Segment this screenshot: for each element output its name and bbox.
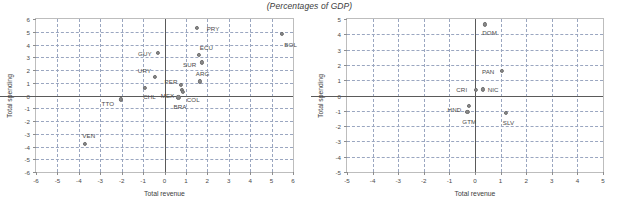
x-tick-label: -5 <box>344 177 350 184</box>
x-axis-title: Total revenue <box>455 190 496 197</box>
data-point-label: BOL <box>284 41 297 48</box>
x-tick-mark <box>347 172 348 175</box>
y-tick-label: 2 <box>338 61 341 68</box>
x-tick-mark <box>424 172 425 175</box>
x-tick-label: 3 <box>550 177 553 184</box>
y-axis-title: Total spending <box>317 74 324 118</box>
x-tick-mark <box>373 172 374 175</box>
x-tick-label: -3 <box>395 177 401 184</box>
y-tick-label: -4 <box>24 143 30 150</box>
x-tick-label: -2 <box>421 177 427 184</box>
y-tick-mark <box>344 126 347 127</box>
x-tick-mark <box>272 172 273 175</box>
y-axis-title: Total spending <box>6 74 13 118</box>
y-tick-mark <box>344 80 347 81</box>
y-tick-mark <box>344 172 347 173</box>
data-point[interactable] <box>504 111 508 115</box>
y-tick-label: 2 <box>27 67 30 74</box>
data-point-label: SUR <box>183 61 196 68</box>
y-tick-label: 3 <box>338 46 341 53</box>
data-point[interactable] <box>83 142 87 146</box>
x-tick-label: -1 <box>140 177 146 184</box>
x-tick-mark <box>603 172 604 175</box>
x-tick-mark <box>501 172 502 175</box>
x-tick-label: -1 <box>447 177 453 184</box>
data-point[interactable] <box>467 104 471 108</box>
x-tick-mark <box>398 172 399 175</box>
data-point[interactable] <box>481 87 485 91</box>
data-point[interactable] <box>178 83 182 87</box>
y-tick-label: -1 <box>335 107 341 114</box>
data-point[interactable] <box>465 109 469 113</box>
data-point-label: ARG <box>196 70 210 77</box>
data-point-label: SLV <box>503 119 515 126</box>
x-tick-label: 4 <box>576 177 579 184</box>
data-point[interactable] <box>280 32 284 36</box>
data-point-label: TTO <box>102 100 115 107</box>
y-tick-mark <box>33 57 36 58</box>
x-tick-mark <box>165 172 166 175</box>
y-tick-mark <box>344 50 347 51</box>
x-tick-mark <box>526 172 527 175</box>
x-tick-label: 0 <box>473 177 476 184</box>
data-point-label: CHL <box>143 93 156 100</box>
data-point[interactable] <box>474 88 478 92</box>
data-point[interactable] <box>181 90 185 94</box>
y-tick-label: -2 <box>335 123 341 130</box>
data-point[interactable] <box>195 26 199 30</box>
x-tick-mark <box>475 172 476 175</box>
x-tick-label: 1 <box>184 177 187 184</box>
data-point-label: GUY <box>138 50 152 57</box>
x-tick-mark <box>552 172 553 175</box>
x-tick-mark <box>143 172 144 175</box>
y-tick-label: 6 <box>27 16 30 23</box>
y-tick-mark <box>33 121 36 122</box>
data-point[interactable] <box>197 53 201 57</box>
data-point[interactable] <box>143 86 147 90</box>
x-tick-mark <box>250 172 251 175</box>
x-tick-label: 2 <box>206 177 209 184</box>
y-tick-mark <box>33 70 36 71</box>
x-tick-mark <box>293 172 294 175</box>
data-point-label: VEN <box>82 132 95 139</box>
x-axis-title: Total revenue <box>144 190 185 197</box>
scatter-panel-left: -6-5-4-3-2-10123456-6-5-4-3-2-10123456To… <box>0 0 310 208</box>
x-tick-mark <box>577 172 578 175</box>
y-tick-mark <box>344 111 347 112</box>
data-point[interactable] <box>156 51 160 55</box>
y-tick-label: -1 <box>24 105 30 112</box>
x-tick-mark <box>186 172 187 175</box>
y-tick-mark <box>344 141 347 142</box>
x-tick-label: 2 <box>524 177 527 184</box>
data-point-label: GTM <box>462 118 476 125</box>
y-tick-label: 1 <box>338 77 341 84</box>
x-tick-mark <box>207 172 208 175</box>
y-tick-mark <box>33 32 36 33</box>
data-point-label: PER <box>165 78 178 85</box>
scatter-panel-right: -5-4-3-2-1012345-5-4-3-2-1012345Total re… <box>310 0 619 208</box>
x-tick-label: 1 <box>499 177 502 184</box>
data-point-label: DOM <box>482 29 497 36</box>
data-point[interactable] <box>500 69 504 73</box>
y-tick-label: 3 <box>27 54 30 61</box>
data-point[interactable] <box>153 75 157 79</box>
y-tick-mark <box>33 108 36 109</box>
data-point-label: COL <box>187 96 200 103</box>
y-tick-label: 5 <box>338 16 341 23</box>
x-tick-label: -5 <box>55 177 61 184</box>
data-point-label: URY <box>138 67 151 74</box>
plot-area-left: -6-5-4-3-2-10123456-6-5-4-3-2-10123456To… <box>35 18 294 173</box>
x-tick-label: -3 <box>97 177 103 184</box>
y-tick-label: 1 <box>27 79 30 86</box>
x-tick-mark <box>57 172 58 175</box>
data-point[interactable] <box>483 22 487 26</box>
y-tick-mark <box>344 65 347 66</box>
data-point[interactable] <box>176 95 180 99</box>
data-point-label: BRA <box>173 103 186 110</box>
y-tick-mark <box>344 19 347 20</box>
y-tick-mark <box>344 34 347 35</box>
y-tick-label: -5 <box>335 169 341 176</box>
data-point[interactable] <box>200 60 204 64</box>
x-tick-label: 3 <box>227 177 230 184</box>
y-tick-label: -2 <box>24 118 30 125</box>
